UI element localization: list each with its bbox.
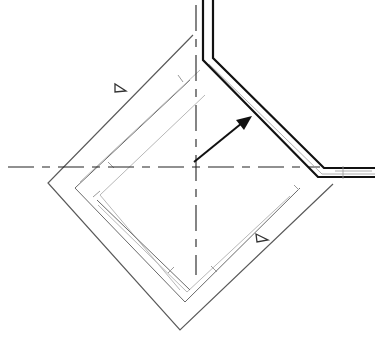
inner-diamond-outline [75,70,300,302]
triangle-marker-upper-left [115,84,126,92]
double-line-wall [203,0,375,179]
drawing-canvas [0,0,388,340]
technical-drawing [0,0,388,340]
triangle-marker-lower-right [256,234,268,242]
direction-arrow [194,116,252,162]
